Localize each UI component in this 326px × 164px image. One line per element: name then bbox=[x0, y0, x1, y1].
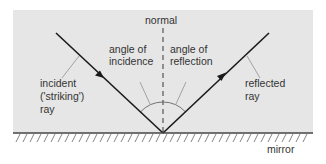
angle-of-reflection-line1: angle of bbox=[170, 43, 213, 55]
angle-of-incidence-line2: incidence bbox=[109, 55, 153, 67]
reflected-label-line1: reflected bbox=[245, 77, 285, 90]
reflected-label-line2: ray bbox=[245, 90, 285, 103]
angle-of-reflection-line2: reflection bbox=[170, 55, 213, 67]
reflected-ray-label: reflected ray bbox=[245, 77, 285, 103]
angle-of-reflection-label: angle of reflection bbox=[170, 43, 213, 67]
incident-label-line2: ('striking') bbox=[40, 90, 84, 103]
mirror-label: mirror bbox=[267, 143, 294, 155]
normal-label: normal bbox=[145, 14, 177, 26]
mirror-hatching bbox=[16, 134, 307, 142]
angle-of-incidence-line1: angle of bbox=[109, 43, 153, 55]
incident-ray-label: incident ('striking') ray bbox=[40, 77, 84, 116]
angle-of-incidence-label: angle of incidence bbox=[109, 43, 153, 67]
incident-label-line1: incident bbox=[40, 77, 84, 90]
incident-label-line3: ray bbox=[40, 103, 84, 116]
